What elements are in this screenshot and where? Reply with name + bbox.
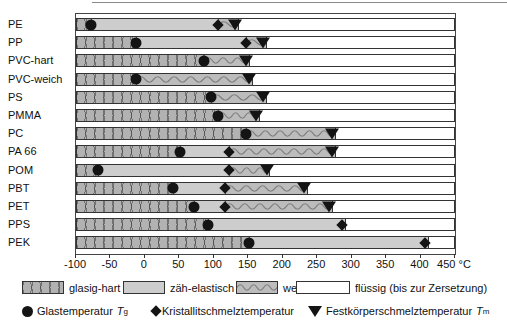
- state-bar: [76, 145, 455, 158]
- segment-weich: [246, 128, 336, 139]
- axis-tick-label: 300: [341, 258, 359, 270]
- row-label: PPS: [8, 218, 74, 231]
- marker-glastemperatur: [92, 165, 103, 176]
- wave-pattern: [237, 282, 277, 293]
- segment-glasig: [77, 201, 194, 212]
- marker-glastemperatur: [130, 74, 141, 85]
- axis-tick-label: 50: [172, 258, 184, 270]
- state-bar: [76, 127, 455, 140]
- marker-glastemperatur: [244, 237, 255, 248]
- axis-tick-label: 250: [307, 258, 325, 270]
- state-bar: [76, 200, 455, 213]
- segment-weich: [229, 146, 336, 157]
- segment-glasig: [77, 183, 173, 194]
- legend-chip-weich: [236, 281, 278, 294]
- marker-glastemperatur: [130, 37, 141, 48]
- diamond-marker-icon: [150, 305, 161, 316]
- axis-tick-label: 150: [238, 258, 256, 270]
- marker-festkoerperschmelztemperatur: [256, 37, 270, 48]
- segment-zaeh: [208, 219, 346, 230]
- segment-glasig: [77, 219, 208, 230]
- axis-tick-label: 400: [410, 258, 428, 270]
- segment-weich: [225, 183, 308, 194]
- marker-festkoerperschmelztemperatur: [242, 74, 256, 85]
- legend-label: Kristallitschmelztemperatur: [162, 305, 294, 317]
- segment-glasig: [77, 237, 249, 248]
- state-bar: [76, 109, 455, 122]
- legend-label: Glastemperatur: [37, 305, 113, 317]
- legend-state-fluessig: flüssig (bis zur Zersetzung): [296, 281, 487, 294]
- segment-zaeh: [98, 165, 229, 176]
- marker-festkoerperschmelztemperatur: [239, 55, 253, 66]
- polymer-state-chart: PEPPPVC-hartPVC-weichPSPMMAPCPA 66POMPBT…: [0, 0, 507, 335]
- legend-label: flüssig (bis zur Zersetzung): [355, 282, 487, 294]
- state-bar: [76, 91, 455, 104]
- marker-festkoerperschmelztemperatur: [249, 110, 263, 121]
- legend-chip-fluessig: [296, 281, 350, 294]
- marker-glastemperatur: [213, 110, 224, 121]
- marker-glastemperatur: [240, 128, 251, 139]
- legend-state-glasig-hart: glasig-hart: [22, 281, 120, 294]
- axis-tick-label: 450 °C: [437, 258, 471, 270]
- segment-weich: [136, 74, 254, 85]
- segment-weich: [225, 201, 332, 212]
- state-bar: [76, 164, 455, 177]
- symbol-sub: g: [124, 307, 128, 316]
- segment-glasig: [77, 74, 136, 85]
- marker-festkoerperschmelztemperatur: [325, 128, 339, 139]
- marker-festkoerperschmelztemperatur: [297, 183, 311, 194]
- segment-zaeh: [91, 19, 218, 30]
- figure-top-rule: [92, 2, 507, 3]
- marker-festkoerperschmelztemperatur: [260, 165, 274, 176]
- state-bar: [76, 236, 455, 249]
- plot-area: [75, 13, 456, 255]
- row-label: PC: [8, 127, 74, 140]
- wave-pattern: [247, 128, 335, 139]
- segment-zaeh: [249, 237, 429, 248]
- row-label: PBT: [8, 182, 74, 195]
- legend-marker-glastemperatur: Glastemperatur Tg: [22, 305, 128, 317]
- legend-marker-festkoerperschmelztemperatur: Festkörperschmelztemperatur Tm: [308, 305, 490, 317]
- marker-glastemperatur: [85, 19, 96, 30]
- marker-glastemperatur: [202, 219, 213, 230]
- row-label: PA 66: [8, 145, 74, 158]
- segment-glasig: [77, 92, 211, 103]
- row-label: POM: [8, 164, 74, 177]
- triangle-down-marker-icon: [308, 306, 322, 317]
- row-label: PMMA: [8, 109, 74, 122]
- wave-pattern: [230, 146, 335, 157]
- symbol-var: T: [476, 305, 483, 317]
- state-bar: [76, 36, 455, 49]
- axis-tick-label: 350: [376, 258, 394, 270]
- circle-marker-icon: [22, 306, 33, 317]
- segment-glasig: [77, 128, 246, 139]
- symbol-sub: m: [483, 307, 490, 316]
- marker-glastemperatur: [206, 92, 217, 103]
- segment-zaeh: [136, 37, 246, 48]
- marker-glastemperatur: [168, 183, 179, 194]
- segment-glasig: [77, 146, 180, 157]
- axis-tick-label: -50: [102, 258, 118, 270]
- segment-glasig: [77, 55, 204, 66]
- marker-glastemperatur: [199, 55, 210, 66]
- marker-festkoerperschmelztemperatur: [322, 201, 336, 212]
- marker-festkoerperschmelztemperatur: [325, 146, 339, 157]
- row-label: PE: [8, 18, 74, 31]
- state-bar: [76, 54, 455, 67]
- row-label: PS: [8, 91, 74, 104]
- legend-label: zäh-elastisch: [170, 282, 234, 294]
- row-label: PET: [8, 200, 74, 213]
- legend-marker-kristallitschmelztemperatur: Kristallitschmelztemperatur: [150, 305, 294, 317]
- row-label: PVC-weich: [8, 73, 74, 86]
- legend-label: glasig-hart: [69, 282, 120, 294]
- state-bar: [76, 18, 455, 31]
- marker-festkoerperschmelztemperatur: [228, 19, 242, 30]
- wave-pattern: [226, 183, 307, 194]
- marker-glastemperatur: [189, 201, 200, 212]
- state-bar: [76, 182, 455, 195]
- wave-pattern: [226, 201, 331, 212]
- wave-pattern: [137, 74, 253, 85]
- state-bar: [76, 73, 455, 86]
- marker-festkoerperschmelztemperatur: [256, 92, 270, 103]
- row-label: PP: [8, 36, 74, 49]
